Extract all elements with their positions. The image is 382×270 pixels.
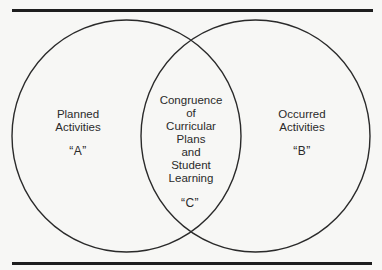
bottom-rule [12, 262, 372, 265]
label-line: Activities [278, 121, 325, 134]
letter-b: “B” [293, 145, 311, 158]
venn-diagram: Planned Activities “A” Occurred Activiti… [0, 0, 382, 270]
label-line: Activities [55, 121, 100, 134]
label-planned-activities: Planned Activities [55, 108, 100, 134]
label-line: of [160, 107, 223, 120]
label-line: Congruence [160, 94, 223, 107]
label-line: Student [160, 159, 223, 172]
letter-a: “A” [69, 145, 87, 158]
label-line: Planned [55, 108, 100, 121]
label-line: Occurred [278, 108, 325, 121]
label-congruence: Congruence of Curricular Plans and Stude… [160, 94, 223, 185]
label-line: Curricular [160, 120, 223, 133]
label-line: and [160, 146, 223, 159]
label-line: Plans [160, 133, 223, 146]
label-line: Learning [160, 172, 223, 185]
label-occurred-activities: Occurred Activities [278, 108, 325, 134]
letter-c: “C” [181, 197, 199, 210]
